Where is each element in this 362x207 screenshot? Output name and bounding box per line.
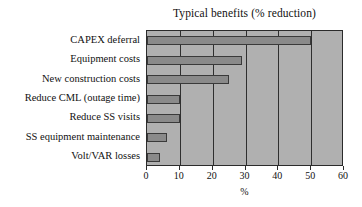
bar-row <box>147 133 342 142</box>
x-tick-label-0: 0 <box>131 170 161 181</box>
bar <box>147 56 242 65</box>
category-axis-labels: CAPEX deferralEquipment costsNew constru… <box>0 30 143 166</box>
bar <box>147 36 311 45</box>
x-tick-label-40: 40 <box>262 170 292 181</box>
category-label: Reduce CML (outage time) <box>25 92 140 104</box>
x-tick-label-60: 60 <box>328 170 358 181</box>
category-label: CAPEX deferral <box>70 34 140 46</box>
bar <box>147 75 229 84</box>
x-tick-label-50: 50 <box>295 170 325 181</box>
category-label: SS equipment maintenance <box>26 131 140 143</box>
bar-row <box>147 153 342 162</box>
chart-title: Typical benefits (% reduction) <box>146 7 343 19</box>
category-label: Equipment costs <box>70 53 140 65</box>
category-label: New construction costs <box>42 73 140 85</box>
bar-row <box>147 75 342 84</box>
bar-row <box>147 56 342 65</box>
plot-area <box>146 30 343 166</box>
x-tick-label-10: 10 <box>164 170 194 181</box>
bar <box>147 114 180 123</box>
category-label: Reduce SS visits <box>69 111 140 123</box>
bar-row <box>147 114 342 123</box>
plot-inner <box>147 31 342 165</box>
x-tick-label-30: 30 <box>230 170 260 181</box>
bar <box>147 153 160 162</box>
bar <box>147 95 180 104</box>
chart-root: Typical benefits (% reduction) CAPEX def… <box>0 0 362 207</box>
bar <box>147 133 167 142</box>
x-tick-label-20: 20 <box>197 170 227 181</box>
category-label: Volt/VAR losses <box>71 150 140 162</box>
x-axis-title: % <box>146 186 343 197</box>
bar-row <box>147 36 342 45</box>
bar-row <box>147 95 342 104</box>
